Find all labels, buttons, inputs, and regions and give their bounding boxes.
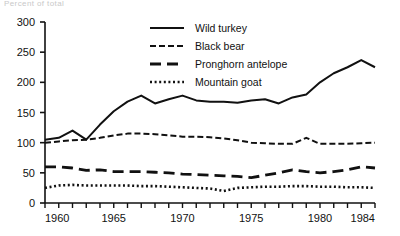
- x-axis-tick-labels: 196019651970197519801984: [45, 212, 375, 224]
- series-line-black-bear: [45, 134, 375, 144]
- legend-label-pronghorn-antelope: Pronghorn antelope: [195, 58, 287, 70]
- y-tick-label: 150: [17, 107, 35, 119]
- y-tick-label: 300: [17, 16, 35, 28]
- x-tick-label: 1965: [102, 212, 126, 224]
- line-chart: Percent of total 050100150200250300 1960…: [0, 0, 400, 236]
- chart-legend: Wild turkeyBlack bearPronghorn antelopeM…: [150, 22, 287, 88]
- x-tick-label: 1980: [308, 212, 332, 224]
- legend-label-black-bear: Black bear: [195, 40, 245, 52]
- y-tick-label: 0: [29, 197, 35, 209]
- x-tick-label: 1960: [45, 212, 69, 224]
- y-axis-tick-labels: 050100150200250300: [17, 16, 35, 209]
- y-tick-label: 100: [17, 137, 35, 149]
- legend-label-mountain-goat: Mountain goat: [195, 76, 262, 88]
- x-tick-label: 1970: [170, 212, 194, 224]
- y-tick-label: 50: [23, 167, 35, 179]
- y-tick-label: 200: [17, 76, 35, 88]
- x-tick-label: 1984: [351, 212, 375, 224]
- series-line-pronghorn-antelope: [45, 167, 375, 178]
- legend-label-wild-turkey: Wild turkey: [195, 22, 248, 34]
- series-line-mountain-goat: [45, 185, 375, 191]
- chart-canvas: 050100150200250300 196019651970197519801…: [0, 0, 400, 236]
- y-tick-label: 250: [17, 46, 35, 58]
- series-line-wild-turkey: [45, 60, 375, 140]
- x-tick-label: 1975: [239, 212, 263, 224]
